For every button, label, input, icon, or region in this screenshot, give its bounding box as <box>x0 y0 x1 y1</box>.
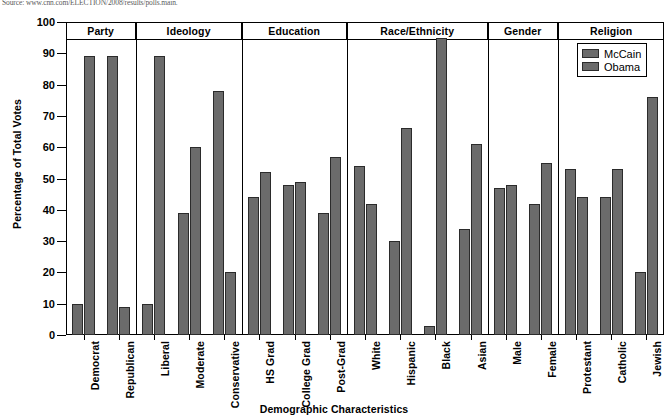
bar-obama-black <box>436 38 447 335</box>
y-axis-tick-label: 70 <box>43 110 55 122</box>
bar-obama-conservative <box>225 272 236 335</box>
bar-obama-liberal <box>154 56 165 335</box>
chart-legend: McCainObama <box>577 43 647 77</box>
bar-mccain-post-grad <box>318 213 329 335</box>
x-axis-tick-mark <box>330 335 331 340</box>
y-axis-title: Percentage of Total Votes <box>11 44 23 284</box>
bar-mccain-democrat <box>72 304 83 335</box>
bar-obama-white <box>366 204 377 335</box>
y-axis-tick-mark <box>57 304 66 305</box>
y-axis-tick-label: 60 <box>43 141 55 153</box>
bar-obama-republican <box>119 307 130 335</box>
x-axis-tick-mark <box>576 335 577 340</box>
bar-mccain-hs-grad <box>248 197 259 335</box>
x-axis-label-college-grad: College Grad <box>300 341 312 408</box>
bar-obama-jewish <box>647 97 658 335</box>
bar-obama-moderate <box>190 147 201 335</box>
bar-mccain-republican <box>107 56 118 335</box>
x-axis-tick-mark <box>154 335 155 340</box>
x-axis-tick-mark <box>400 335 401 340</box>
x-axis-label-jewish: Jewish <box>651 341 663 377</box>
y-axis-tick-mark <box>57 53 66 54</box>
legend-label-obama: Obama <box>604 61 640 73</box>
y-axis-tick-mark <box>57 241 66 242</box>
bar-mccain-moderate <box>178 213 189 335</box>
bar-mccain-hispanic <box>389 241 400 335</box>
bar-mccain-jewish <box>635 272 646 335</box>
legend-swatch-mccain <box>582 49 599 58</box>
x-axis-tick-mark <box>541 335 542 340</box>
x-axis-label-protestant: Protestant <box>581 341 593 394</box>
bar-mccain-white <box>354 166 365 335</box>
x-axis-label-liberal: Liberal <box>159 341 171 376</box>
bar-obama-hs-grad <box>260 172 271 335</box>
y-axis-tick-label: 40 <box>43 204 55 216</box>
x-axis-label-moderate: Moderate <box>194 341 206 388</box>
y-axis-tick-label: 50 <box>43 173 55 185</box>
x-axis-tick-mark <box>365 335 366 340</box>
bars-layer <box>66 22 664 335</box>
y-axis-tick-mark <box>57 272 66 273</box>
bar-obama-catholic <box>612 169 623 335</box>
x-axis-label-republican: Republican <box>124 341 136 399</box>
bar-mccain-college-grad <box>283 185 294 335</box>
y-axis-tick-label: 90 <box>43 47 55 59</box>
x-axis-tick-mark <box>295 335 296 340</box>
bar-obama-protestant <box>577 197 588 335</box>
x-axis-tick-mark <box>224 335 225 340</box>
x-axis-label-black: Black <box>440 341 452 370</box>
y-axis-tick-mark <box>57 179 66 180</box>
y-axis-tick-mark <box>57 147 66 148</box>
bar-mccain-liberal <box>142 304 153 335</box>
legend-item-mccain: McCain <box>582 47 641 60</box>
bar-obama-hispanic <box>401 128 412 335</box>
x-axis-label-male: Male <box>511 341 523 365</box>
x-axis-title: Demographic Characteristics <box>0 403 668 415</box>
x-axis-label-female: Female <box>546 341 558 378</box>
bar-mccain-conservative <box>213 91 224 335</box>
legend-swatch-obama <box>582 62 599 71</box>
y-axis-tick-mark <box>57 116 66 117</box>
bar-mccain-asian <box>459 229 470 335</box>
bar-obama-asian <box>471 144 482 335</box>
x-axis-label-hs-grad: HS Grad <box>264 341 276 384</box>
bar-mccain-black <box>424 326 435 335</box>
y-axis-tick-mark <box>57 335 66 336</box>
bar-obama-college-grad <box>295 182 306 335</box>
bar-mccain-male <box>494 188 505 335</box>
y-axis-tick-label: 20 <box>43 266 55 278</box>
x-axis-tick-mark <box>435 335 436 340</box>
x-axis-label-post-grad: Post-Grad <box>335 341 347 393</box>
y-axis-tick-label: 10 <box>43 298 55 310</box>
x-axis-label-white: White <box>370 341 382 370</box>
y-axis-tick-label: 30 <box>43 235 55 247</box>
bar-obama-democrat <box>84 56 95 335</box>
y-axis-tick-mark <box>57 210 66 211</box>
y-axis-tick-label: 100 <box>37 16 55 28</box>
x-axis-tick-mark <box>646 335 647 340</box>
y-axis-tick-label: 0 <box>49 329 55 341</box>
bar-obama-female <box>541 163 552 335</box>
bar-mccain-catholic <box>600 197 611 335</box>
x-axis-tick-mark <box>611 335 612 340</box>
bar-obama-male <box>506 185 517 335</box>
x-axis-tick-mark <box>259 335 260 340</box>
legend-item-obama: Obama <box>582 60 641 73</box>
bar-obama-post-grad <box>330 157 341 335</box>
x-axis-tick-mark <box>189 335 190 340</box>
bar-chart-figure: Percentage of Total Votes 01020304050607… <box>0 0 668 420</box>
x-axis-label-hispanic: Hispanic <box>405 341 417 386</box>
x-axis-label-catholic: Catholic <box>616 341 628 383</box>
bar-mccain-protestant <box>565 169 576 335</box>
x-axis-tick-mark <box>84 335 85 340</box>
x-axis-tick-mark <box>471 335 472 340</box>
x-axis-label-conservative: Conservative <box>229 341 241 408</box>
bar-mccain-female <box>529 204 540 335</box>
x-axis-label-asian: Asian <box>476 341 488 370</box>
x-axis-tick-mark <box>119 335 120 340</box>
y-axis-tick-mark <box>57 22 66 23</box>
x-axis-label-democrat: Democrat <box>89 341 101 390</box>
y-axis-tick-label: 80 <box>43 79 55 91</box>
legend-label-mccain: McCain <box>604 48 641 60</box>
y-axis-tick-mark <box>57 85 66 86</box>
